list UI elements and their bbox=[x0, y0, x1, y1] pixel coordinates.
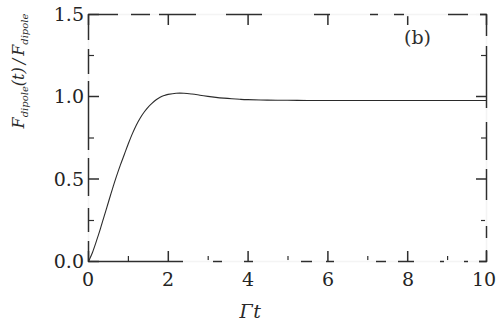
xtick-label-3: 4 bbox=[242, 268, 254, 290]
xtick-label-1: 0 bbox=[82, 268, 94, 290]
y-axis-numerator-symbol: F bbox=[9, 117, 28, 128]
scan-artifacts bbox=[87, 13, 488, 263]
panel-label: (b) bbox=[404, 26, 431, 48]
y-axis-denominator-symbol: F bbox=[9, 45, 28, 56]
y-axis-title-container: Fdipole(t)/Fdipole bbox=[9, 0, 35, 181]
y-axis-numerator-argument: (t) bbox=[9, 67, 28, 86]
xtick-label-6: 10 bbox=[472, 268, 496, 290]
xtick-label-4: 6 bbox=[322, 268, 334, 290]
ytick-label-2: 1.0 bbox=[54, 85, 84, 107]
ytick-label-3: 0.5 bbox=[54, 168, 84, 190]
y-axis-numerator-subscript: dipole bbox=[19, 86, 30, 117]
ytick-label-4: 0.0 bbox=[54, 250, 84, 272]
data-curve-dipole-force bbox=[89, 93, 487, 261]
x-axis-title: Γt bbox=[0, 300, 501, 322]
y-axis-title: Fdipole(t)/Fdipole bbox=[9, 14, 28, 129]
xtick-label-5: 8 bbox=[402, 268, 414, 290]
y-axis-separator: / bbox=[9, 56, 28, 67]
figure-panel-b: 1.5 1.0 0.5 0.0 0 2 4 6 8 10 Γt Fdipole(… bbox=[0, 0, 501, 334]
tick-marks bbox=[89, 15, 487, 262]
xtick-label-2: 2 bbox=[162, 268, 174, 290]
axes-frame bbox=[88, 14, 487, 262]
ytick-label-1: 1.5 bbox=[54, 3, 84, 25]
y-axis-denominator-subscript: dipole bbox=[19, 14, 30, 45]
